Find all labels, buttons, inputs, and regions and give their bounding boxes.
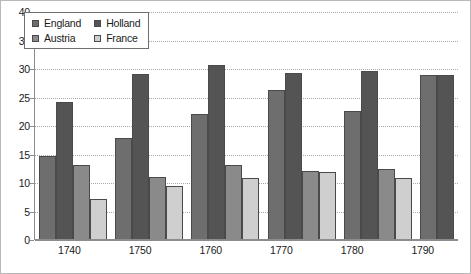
legend-swatch-icon-austria [32, 35, 39, 42]
bar-austria-1770 [302, 171, 319, 239]
legend-item-england: England [32, 17, 81, 29]
y-tick-mark-5 [30, 212, 34, 213]
bar-chart: 0510152025303540 17401750176017701780179… [0, 0, 471, 274]
bar-holland-1790 [437, 75, 454, 239]
bar-england-1740 [39, 156, 56, 239]
legend-label-england: England [44, 17, 81, 29]
bar-holland-1750 [132, 74, 149, 239]
bar-group-1760 [191, 12, 259, 239]
y-tick-mark-15 [30, 155, 34, 156]
legend-swatch-icon-england [32, 20, 39, 27]
y-tick-label-5: 5 [2, 206, 30, 218]
legend-label-austria: Austria [44, 32, 75, 44]
bar-france-1740 [90, 199, 107, 239]
bar-austria-1750 [149, 177, 166, 239]
bar-england-1770 [268, 90, 285, 239]
x-tick-label-1790: 1790 [387, 244, 458, 264]
bar-group-1780 [344, 12, 412, 239]
bar-group-1790 [420, 12, 454, 239]
bar-france-1770 [319, 172, 336, 239]
y-tick-label-10: 10 [2, 177, 30, 189]
y-tick-label-25: 25 [2, 92, 30, 104]
bar-france-1760 [242, 178, 259, 239]
bar-england-1760 [191, 114, 208, 239]
legend-item-holland: Holland [94, 17, 140, 29]
legend-swatch-icon-holland [94, 20, 101, 27]
bar-austria-1780 [378, 169, 395, 239]
y-tick-label-30: 30 [2, 63, 30, 75]
chart-legend: EnglandHollandAustriaFrance [24, 12, 149, 49]
x-tick-label-1740: 1740 [34, 244, 105, 264]
y-tick-label-0: 0 [2, 234, 30, 246]
x-tick-label-1770: 1770 [246, 244, 317, 264]
gridline-0 [35, 240, 458, 241]
bar-group-1770 [268, 12, 336, 239]
bar-austria-1740 [73, 165, 90, 239]
bar-england-1750 [115, 138, 132, 239]
y-tick-mark-30 [30, 69, 34, 70]
legend-item-france: France [94, 32, 140, 44]
legend-label-france: France [106, 32, 137, 44]
y-tick-mark-25 [30, 98, 34, 99]
y-tick-mark-0 [30, 240, 34, 241]
legend-label-holland: Holland [106, 17, 140, 29]
legend-item-austria: Austria [32, 32, 81, 44]
bar-austria-1760 [225, 165, 242, 239]
bar-england-1780 [344, 111, 361, 239]
y-tick-mark-10 [30, 183, 34, 184]
bar-holland-1760 [208, 65, 225, 239]
legend-swatch-icon-france [94, 35, 101, 42]
bar-england-1790 [420, 75, 437, 239]
y-tick-label-20: 20 [2, 120, 30, 132]
bar-holland-1780 [361, 71, 378, 239]
bar-holland-1770 [285, 73, 302, 239]
x-tick-label-1760: 1760 [175, 244, 246, 264]
bar-holland-1740 [56, 102, 73, 239]
bar-france-1780 [395, 178, 412, 239]
bar-france-1750 [166, 186, 183, 239]
x-axis-labels: 174017501760177017801790 [34, 244, 458, 264]
x-tick-label-1780: 1780 [317, 244, 388, 264]
x-tick-label-1750: 1750 [105, 244, 176, 264]
y-tick-label-15: 15 [2, 149, 30, 161]
y-tick-mark-20 [30, 126, 34, 127]
